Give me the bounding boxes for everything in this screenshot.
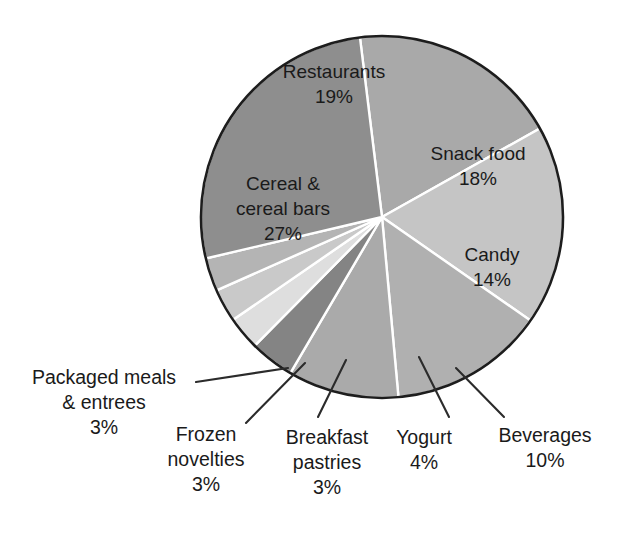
slice-label-beverages: Beverages10% [498,424,591,471]
slice-label-yogurt: Yogurt4% [396,426,452,473]
slice-label-breakfast-pastries: Breakfastpastries3% [286,426,369,498]
slice-label-packaged-meals-entrees: Packaged meals& entrees3% [32,366,176,438]
pie-chart-svg: Restaurants19%Snack food18%Candy14%Bever… [0,0,631,544]
pie-chart-figure: Restaurants19%Snack food18%Candy14%Bever… [0,0,631,544]
leader-line-beverages [456,368,504,417]
leader-line-packaged-meals-entrees [196,368,288,382]
slice-label-frozen-novelties: Frozennovelties3% [168,423,245,495]
